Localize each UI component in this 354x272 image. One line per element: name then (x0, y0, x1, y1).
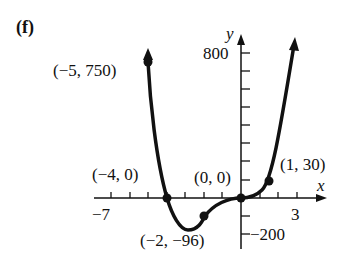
annotation-neg4-0: (−4, 0) (92, 165, 138, 184)
y-axis-ticks (241, 53, 250, 234)
point-neg4-0 (163, 194, 172, 203)
annotation-neg5-750: (−5, 750) (53, 61, 116, 80)
point-1-30 (265, 177, 274, 186)
point-0-0 (237, 194, 246, 203)
y-axis-label: y (224, 24, 234, 43)
x-min-label: −7 (92, 205, 111, 224)
curve-right-arrow-icon (289, 37, 299, 51)
x-max-label: 3 (291, 205, 300, 224)
point-neg2-neg96 (200, 212, 209, 221)
panel-label: (f) (16, 17, 34, 38)
y-min-label: −200 (250, 225, 285, 244)
y-max-label: 800 (203, 44, 229, 63)
x-axis-label: x (316, 176, 325, 195)
x-axis-arrow-icon (316, 194, 327, 202)
chart: (f) x −7 3 (0, 0, 354, 272)
point-neg5-750 (144, 58, 153, 67)
y-axis-arrow-icon (237, 34, 245, 45)
annotation-0-0: (0, 0) (194, 168, 231, 187)
y-axis: y 800 −200 (203, 24, 285, 249)
annotation-neg2-neg96: (−2, −96) (140, 231, 205, 250)
annotation-1-30: (1, 30) (280, 155, 325, 174)
x-axis-ticks (111, 192, 297, 198)
